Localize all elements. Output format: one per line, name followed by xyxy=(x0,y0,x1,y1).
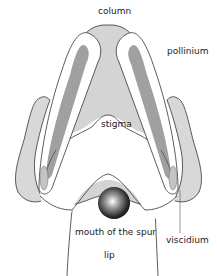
left-viscidium xyxy=(40,166,48,190)
spur-mouth-sphere xyxy=(98,187,130,219)
lip xyxy=(67,210,158,276)
label-stigma: stigma xyxy=(101,120,132,129)
label-pollinium: pollinium xyxy=(167,47,208,56)
label-lip: lip xyxy=(104,251,115,260)
right-viscidium xyxy=(169,166,177,190)
label-viscidium: viscidium xyxy=(166,236,209,245)
label-column: column xyxy=(98,7,131,16)
label-mouth-of-spur: mouth of the spur xyxy=(75,228,156,237)
